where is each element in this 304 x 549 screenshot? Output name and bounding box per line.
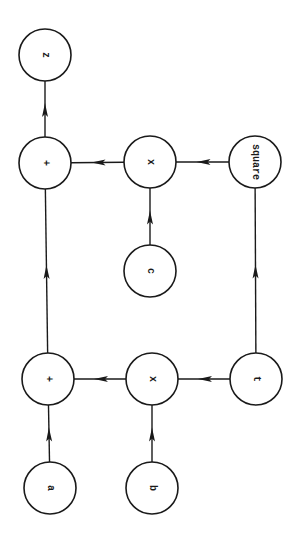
edge-a-to-plus2 <box>46 405 52 462</box>
edge-c-to-mul1 <box>147 188 153 245</box>
node-label: c <box>145 268 156 274</box>
node-mul2: x <box>126 353 178 405</box>
node-z: z <box>19 29 71 81</box>
node-plus1: + <box>19 137 71 189</box>
node-t: t <box>230 353 282 405</box>
node-label: b <box>147 485 158 491</box>
edge-plus2-to-plus1 <box>44 189 50 353</box>
node-label: + <box>40 160 51 166</box>
node-square: square <box>229 136 281 188</box>
computation-graph: z+xsquarec+xtab <box>0 0 304 549</box>
node-label: a <box>45 485 56 491</box>
node-plus2: + <box>22 353 74 405</box>
nodes: z+xsquarec+xtab <box>19 29 282 514</box>
node-c: c <box>124 245 176 297</box>
edge-b-to-mul2 <box>149 405 155 462</box>
edge-plus1-to-z <box>42 81 48 137</box>
node-label: z <box>40 52 51 58</box>
node-label: x <box>147 376 158 382</box>
edge-t-to-mul2 <box>178 376 230 382</box>
node-mul1: x <box>124 136 176 188</box>
node-label: t <box>251 376 262 382</box>
node-a: a <box>24 462 76 514</box>
edge-t-to-square <box>253 188 259 353</box>
node-label: x <box>145 159 156 165</box>
edge-square-to-mul1 <box>176 159 229 165</box>
edge-mul1-to-plus1 <box>71 159 124 165</box>
node-label: + <box>43 376 54 382</box>
node-label: square <box>250 144 261 180</box>
edge-mul2-to-plus2 <box>74 376 126 382</box>
node-b: b <box>126 462 178 514</box>
